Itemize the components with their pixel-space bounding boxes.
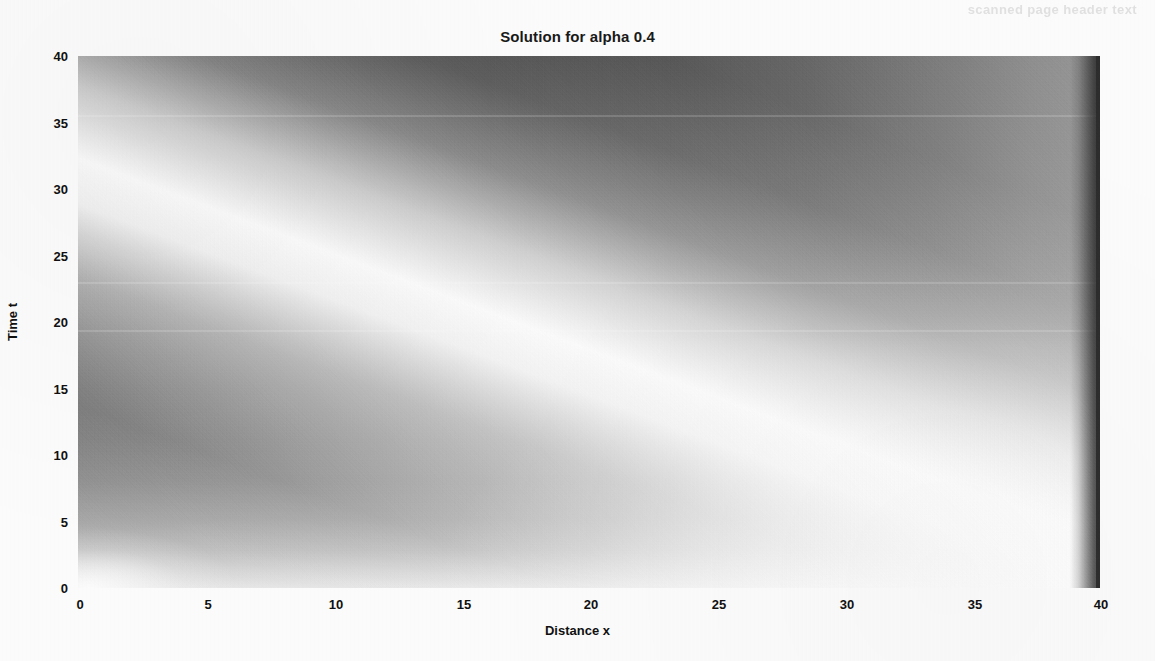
y-tick-label: 20 [28, 315, 68, 330]
x-tick-label: 20 [566, 597, 616, 612]
y-tick-label: 30 [28, 182, 68, 197]
x-tick-label: 25 [694, 597, 744, 612]
x-tick-label: 5 [183, 597, 233, 612]
y-tick-label: 15 [28, 382, 68, 397]
x-tick-label: 40 [1076, 597, 1126, 612]
scanned-header-artifact: scanned page header text [968, 2, 1137, 17]
x-tick-label: 10 [311, 597, 361, 612]
chart-title: Solution for alpha 0.4 [0, 28, 1155, 45]
y-tick-label: 10 [28, 448, 68, 463]
y-tick-label: 5 [28, 515, 68, 530]
y-tick-label: 35 [28, 116, 68, 131]
y-axis-title: Time t [5, 262, 20, 382]
x-tick-label: 0 [55, 597, 105, 612]
x-axis-title: Distance x [0, 623, 1155, 638]
y-tick-label: 0 [28, 581, 68, 596]
figure-canvas: scanned page header text Solution for al… [0, 0, 1155, 661]
y-tick-label: 40 [28, 49, 68, 64]
x-tick-label: 15 [439, 597, 489, 612]
scan-grain-overlay [78, 56, 1100, 588]
x-tick-label: 35 [950, 597, 1000, 612]
y-tick-label: 25 [28, 249, 68, 264]
x-tick-label: 30 [822, 597, 872, 612]
heatmap-plot-area[interactable] [78, 56, 1100, 588]
